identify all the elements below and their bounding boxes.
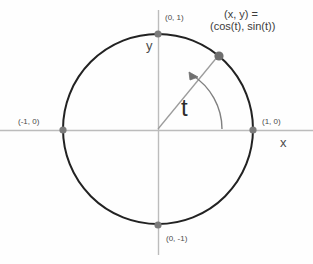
point-left [59,126,66,133]
point-bottom [154,221,161,228]
point-top [154,30,161,37]
point-label-left: (-1, 0) [18,118,39,126]
radius-line [158,56,218,129]
point-terminal [214,51,223,60]
angle-label-t: t [181,95,188,120]
x-axis-label: x [280,136,287,150]
parametric-line-1: (x, y) = [224,9,275,21]
point-label-right: (1, 0) [262,118,281,126]
point-label-top: (0, 1) [165,14,184,22]
unit-circle-figure: (0, 1) (-1, 0) (1, 0) (0, -1) y x t (x, … [0,0,313,264]
point-right [249,126,256,133]
unit-circle-svg [0,0,313,264]
point-label-bottom: (0, -1) [166,235,187,243]
parametric-annotation: (x, y) = (cos(t), sin(t)) [224,9,275,32]
y-axis-label: y [146,39,153,53]
parametric-line-2: (cos(t), sin(t)) [210,21,275,33]
